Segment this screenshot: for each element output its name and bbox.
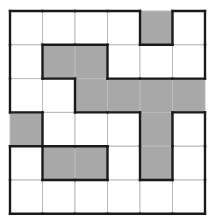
empty-cell[interactable]	[75, 112, 108, 146]
empty-cell[interactable]	[10, 180, 43, 214]
empty-cell[interactable]	[108, 180, 141, 214]
empty-cell[interactable]	[140, 45, 173, 79]
empty-cell[interactable]	[108, 112, 141, 146]
empty-cell[interactable]	[75, 180, 108, 214]
empty-cell[interactable]	[173, 146, 206, 180]
empty-cell[interactable]	[10, 45, 43, 79]
filled-cell[interactable]	[10, 112, 43, 146]
empty-cell[interactable]	[10, 11, 43, 45]
empty-cell[interactable]	[173, 112, 206, 146]
empty-cell[interactable]	[43, 112, 76, 146]
empty-cell[interactable]	[173, 45, 206, 79]
filled-cell[interactable]	[43, 146, 76, 180]
empty-cell[interactable]	[108, 45, 141, 79]
empty-cell[interactable]	[10, 79, 43, 113]
filled-cell[interactable]	[140, 11, 173, 45]
filled-cell[interactable]	[75, 79, 108, 113]
filled-cell[interactable]	[43, 45, 76, 79]
empty-cell[interactable]	[108, 11, 141, 45]
empty-cell[interactable]	[75, 11, 108, 45]
filled-cell[interactable]	[140, 79, 173, 113]
filled-cell[interactable]	[140, 112, 173, 146]
filled-cell[interactable]	[140, 146, 173, 180]
filled-cell[interactable]	[75, 146, 108, 180]
puzzle-grid	[0, 0, 216, 224]
filled-cell[interactable]	[108, 79, 141, 113]
empty-cell[interactable]	[43, 79, 76, 113]
empty-cell[interactable]	[43, 180, 76, 214]
empty-cell[interactable]	[173, 11, 206, 45]
filled-cell[interactable]	[75, 45, 108, 79]
filled-cell[interactable]	[173, 79, 206, 113]
empty-cell[interactable]	[10, 146, 43, 180]
empty-cell[interactable]	[173, 180, 206, 214]
empty-cell[interactable]	[108, 146, 141, 180]
empty-cell[interactable]	[43, 11, 76, 45]
empty-cell[interactable]	[140, 180, 173, 214]
